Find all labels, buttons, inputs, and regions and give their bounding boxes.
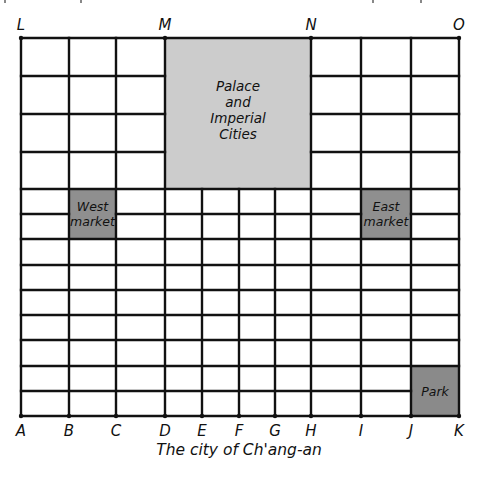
gate-dot: [19, 36, 23, 40]
gate-label-d: D: [159, 424, 171, 439]
gate-label-i: I: [359, 424, 363, 439]
gate-dot: [273, 414, 277, 418]
gate-dot: [114, 414, 118, 418]
east-market-label-line: East: [364, 199, 409, 214]
palace-label-line: Palace: [210, 77, 265, 93]
palace-label: PalaceandImperialCities: [210, 77, 265, 142]
gate-dot: [359, 414, 363, 418]
park-label: Park: [421, 384, 449, 399]
gate-label-l: L: [17, 18, 25, 33]
gate-label-m: M: [159, 18, 172, 33]
gate-label-g: G: [269, 424, 281, 439]
gate-dot: [309, 414, 313, 418]
diagram-title: The city of Ch'ang-an: [156, 441, 322, 459]
gate-dot: [200, 414, 204, 418]
gate-dot: [457, 414, 461, 418]
gate-dot: [237, 414, 241, 418]
gate-dot: [67, 414, 71, 418]
gate-label-h: H: [305, 424, 316, 439]
gate-label-c: C: [111, 424, 121, 439]
gate-label-n: N: [305, 18, 316, 33]
palace-label-line: Imperial: [210, 110, 265, 126]
west-market-label: Westmarket: [70, 199, 115, 229]
gate-label-e: E: [197, 424, 206, 439]
park-label-line: Park: [421, 384, 449, 399]
west-market-label-line: market: [70, 214, 115, 229]
gate-label-k: K: [454, 424, 464, 439]
changan-city-diagram: ABCDEFGHIJK LMNO PalaceandImperialCities…: [0, 0, 477, 477]
gate-dot: [457, 36, 461, 40]
palace-label-line: and: [210, 93, 265, 109]
gate-label-b: B: [64, 424, 74, 439]
gate-dot: [409, 414, 413, 418]
city-grid: [0, 0, 477, 477]
east-market-label: Eastmarket: [364, 199, 409, 229]
gate-dot: [309, 36, 313, 40]
gate-label-j: J: [409, 424, 413, 439]
gate-dot: [163, 414, 167, 418]
palace-label-line: Cities: [210, 126, 265, 142]
gate-label-a: A: [16, 424, 26, 439]
gate-label-o: O: [453, 18, 465, 33]
gate-label-f: F: [235, 424, 244, 439]
west-market-label-line: West: [70, 199, 115, 214]
gate-dot: [163, 36, 167, 40]
east-market-label-line: market: [364, 214, 409, 229]
gate-dot: [19, 414, 23, 418]
